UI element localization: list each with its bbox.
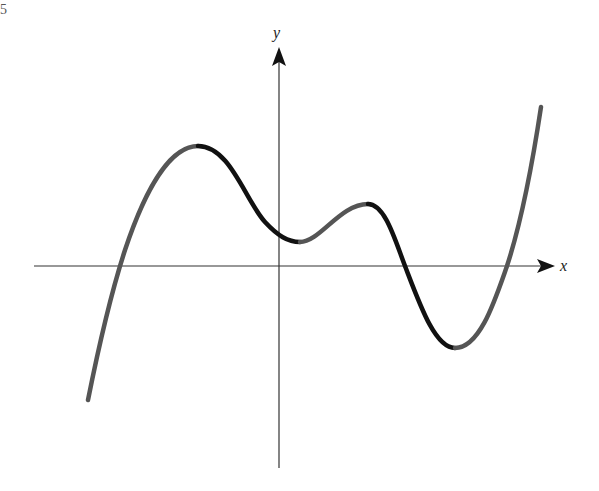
curve-segment-decreasing-2 [368, 204, 455, 348]
y-axis-label: y [271, 24, 281, 42]
curve-segment-increasing-3 [455, 107, 541, 348]
curve-segment-increasing-2 [300, 204, 368, 242]
curve-segment-decreasing-1 [198, 146, 300, 242]
x-axis-label: x [559, 257, 567, 274]
curve-segment-increasing-1 [88, 146, 198, 400]
function-graph: x y [0, 0, 599, 491]
